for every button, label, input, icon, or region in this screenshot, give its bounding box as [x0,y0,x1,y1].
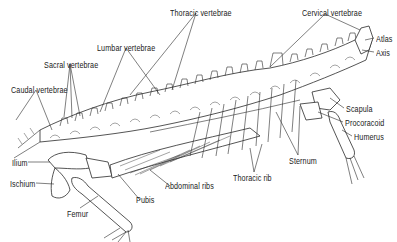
label-thoracic-vertebrae: Thoracic vertebrae [170,9,232,18]
skeleton-illustration [0,0,397,242]
lizard-skeleton-diagram: Thoracic vertebrae Cervical vertebrae At… [0,0,397,242]
label-cervical-vertebrae: Cervical vertebrae [302,9,362,18]
label-humerus: Humerus [354,133,384,142]
label-atlas: Atlas [376,35,392,44]
label-procoracoid: Procoracoid [345,119,384,128]
label-ischium: Ischium [10,180,35,189]
label-sternum: Sternum [289,157,317,166]
label-pubis: Pubis [136,196,154,205]
label-sacral-vertebrae: Sacral vertebrae [44,61,98,70]
ischium [51,168,70,198]
label-lumbar-vertebrae: Lumbar vertebrae [97,44,155,53]
procoracoid [300,102,322,120]
abdominal-ribs-lines [110,128,260,178]
label-caudal-vertebrae: Caudal vertebrae [11,86,68,95]
femur [72,177,132,232]
label-femur: Femur [67,210,88,219]
label-abdominal-ribs: Abdominal ribs [165,182,214,191]
pubis [86,158,112,178]
label-ilium: Ilium [12,159,28,168]
tail [14,128,40,158]
ilium [48,152,90,169]
label-scapula: Scapula [346,105,373,114]
label-thoracic-rib: Thoracic rib [233,174,272,183]
vertebral-column [40,26,373,142]
label-axis: Axis [376,49,390,58]
